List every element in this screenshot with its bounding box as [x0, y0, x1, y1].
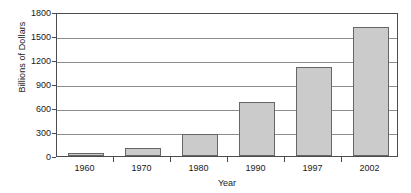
y-axis-tick-labels: 0300600900120015001800 — [18, 0, 51, 193]
bar — [296, 67, 332, 156]
x-axis-tick-mark — [341, 157, 342, 162]
gridline — [57, 110, 397, 111]
bar — [182, 134, 218, 156]
gridline — [57, 38, 397, 39]
x-axis-tick-label: 1960 — [74, 163, 94, 173]
x-axis-tick-label: 1990 — [245, 163, 265, 173]
y-axis-tick-mark — [52, 157, 56, 158]
bar — [68, 153, 104, 156]
x-axis-tick-mark — [170, 157, 171, 162]
x-axis-tick-mark — [227, 157, 228, 162]
bar-chart: Billions of Dollars 03006009001200150018… — [0, 0, 411, 193]
bar — [125, 148, 161, 156]
x-axis-tick-label: 1997 — [302, 163, 322, 173]
bar — [353, 27, 389, 156]
x-axis-tick-mark — [284, 157, 285, 162]
bar — [239, 102, 275, 156]
gridline — [57, 86, 397, 87]
y-axis-tick-label: 900 — [21, 81, 51, 90]
y-axis-tick-label: 1500 — [21, 33, 51, 42]
plot-area — [56, 13, 398, 157]
x-axis-title: Year — [56, 178, 398, 188]
y-axis-tick-label: 300 — [21, 129, 51, 138]
x-axis-tick-label: 1970 — [131, 163, 151, 173]
x-axis-tick-label: 2002 — [359, 163, 379, 173]
gridline — [57, 134, 397, 135]
x-axis-tick-mark — [113, 157, 114, 162]
y-axis-tick-label: 0 — [21, 153, 51, 162]
y-axis-tick-label: 1800 — [21, 9, 51, 18]
y-axis-tick-label: 1200 — [21, 57, 51, 66]
y-axis-tick-label: 600 — [21, 105, 51, 114]
x-axis-tick-label: 1980 — [188, 163, 208, 173]
gridline — [57, 62, 397, 63]
